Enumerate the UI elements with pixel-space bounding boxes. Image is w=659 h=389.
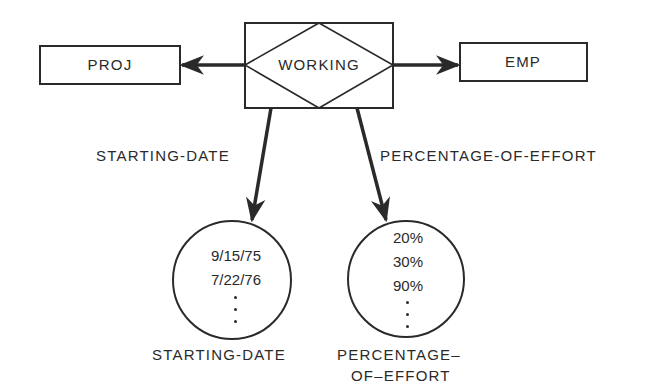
proj-entity-label: PROJ xyxy=(88,56,133,73)
arrow-to-starting-date xyxy=(252,108,271,220)
starting-date-caption: STARTING-DATE xyxy=(152,346,286,363)
starting-date-value: 9/15/75 xyxy=(211,247,261,264)
percentage-caption-line1: PERCENTAGE– xyxy=(337,346,461,363)
percentage-of-effort-arrow-label: PERCENTAGE-OF-EFFORT xyxy=(380,147,597,164)
starting-date-value: 7/22/76 xyxy=(211,271,261,288)
percentage-caption-line2: OF–EFFORT xyxy=(351,367,451,384)
emp-entity-label: EMP xyxy=(505,53,541,70)
starting-date-ellipsis xyxy=(234,296,238,332)
working-relationship-label: WORKING xyxy=(278,56,360,73)
starting-date-arrow-label: STARTING-DATE xyxy=(96,147,230,164)
percentage-ellipsis xyxy=(406,301,410,337)
arrow-to-percentage-of-effort xyxy=(357,108,386,220)
percentage-value: 30% xyxy=(393,253,423,270)
percentage-value: 20% xyxy=(393,229,423,246)
percentage-value: 90% xyxy=(393,277,423,294)
